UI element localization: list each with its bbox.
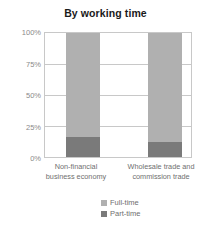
legend-label-part-time: Part-time bbox=[110, 209, 140, 218]
bar-segment-full-time bbox=[148, 33, 182, 142]
bar-segment-part-time bbox=[66, 137, 100, 157]
chart-container: By working time 100% 75% 50% 25% 0% Non-… bbox=[0, 0, 211, 232]
y-tick-label-100: 100% bbox=[5, 28, 41, 37]
bar-non-financial-business-economy bbox=[66, 33, 100, 157]
bar-wholesale-trade-and-commission-trade bbox=[148, 33, 182, 157]
category-label-non-financial-business-economy: Non-financial business economy bbox=[36, 162, 116, 181]
category-label-wholesale-trade-and-commission-trade: Wholesale trade and commission trade bbox=[118, 162, 204, 181]
chart-title: By working time bbox=[0, 7, 211, 19]
legend-swatch-full-time bbox=[101, 200, 107, 206]
x-axis-category-labels: Non-financial business economy Wholesale… bbox=[44, 162, 192, 194]
legend-item-part-time: Part-time bbox=[0, 208, 211, 219]
y-tick-label-75: 75% bbox=[5, 60, 41, 69]
legend-swatch-part-time bbox=[101, 211, 107, 217]
bar-segment-full-time bbox=[66, 33, 100, 137]
chart-legend: Full-time Part-time bbox=[0, 197, 211, 219]
y-axis: 100% 75% 50% 25% 0% bbox=[0, 32, 41, 158]
legend-item-full-time: Full-time bbox=[0, 197, 211, 208]
y-tick-label-25: 25% bbox=[5, 123, 41, 132]
bar-segment-part-time bbox=[148, 142, 182, 157]
legend-label-full-time: Full-time bbox=[110, 198, 139, 207]
y-tick-label-50: 50% bbox=[5, 91, 41, 100]
plot-area bbox=[44, 32, 192, 158]
